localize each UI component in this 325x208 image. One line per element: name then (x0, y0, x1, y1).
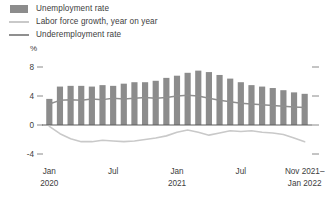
bar-swatch-icon (8, 4, 30, 13)
bar (259, 87, 265, 125)
bar (291, 92, 297, 125)
x-axis-tick-label: 2021 (168, 179, 187, 188)
line-swatch-dark-icon (8, 30, 30, 39)
chart-canvas: 840-4 Jan2020JulJan2021JulNov 2021–Jan 2… (0, 44, 325, 208)
y-axis-ticks: 840-4 (27, 63, 43, 159)
legend-label-underemployment-rate: Underemployment rate (36, 30, 121, 39)
bar (280, 90, 286, 125)
bar (153, 81, 159, 125)
x-axis-tick-label: Jul (236, 167, 247, 176)
x-axis-tick-label: Jan (43, 167, 57, 176)
legend-label-unemployment-rate: Unemployment rate (36, 4, 109, 13)
x-axis-tick-label: Jan (170, 167, 184, 176)
legend-item-unemployment-rate: Unemployment rate (8, 2, 308, 15)
unemployment-chart: Unemployment rate Labor force growth, ye… (0, 0, 325, 208)
x-axis-tick-label: Jan 2022 (288, 179, 322, 188)
bar (195, 71, 201, 125)
line-swatch-light-icon (8, 17, 30, 26)
y-axis-unit-label: % (30, 44, 37, 53)
bar (110, 86, 116, 125)
x-axis-tick-label: Jul (108, 167, 119, 176)
bar (57, 87, 63, 125)
y-axis-tick-label: 4 (29, 92, 34, 101)
x-axis-tick-label: 2020 (40, 179, 59, 188)
bar (89, 87, 95, 125)
bar (163, 78, 169, 125)
bar (248, 85, 254, 125)
legend-item-underemployment-rate: Underemployment rate (8, 28, 308, 41)
bar (68, 86, 74, 125)
bar (270, 88, 276, 125)
plot-area: % 840-4 Jan2020JulJan2021JulNov 2021–Jan… (0, 44, 325, 208)
bar (174, 76, 180, 125)
legend-item-labor-force-growth: Labor force growth, year on year (8, 15, 308, 28)
y-axis-tick-label: 0 (29, 121, 34, 130)
bar (121, 84, 127, 125)
bar (302, 94, 308, 125)
bar (185, 73, 191, 125)
bar (78, 86, 84, 125)
bar (131, 82, 137, 125)
legend-label-labor-force-growth: Labor force growth, year on year (36, 17, 158, 26)
bar (142, 82, 148, 125)
x-axis-tick-label: Nov 2021– (285, 167, 325, 176)
right-axis-ticks (312, 67, 319, 154)
labor-force-growth-line (49, 126, 304, 141)
y-axis-tick-label: 8 (29, 63, 34, 72)
bar (99, 85, 105, 125)
y-axis-tick-label: -4 (27, 150, 35, 159)
x-axis-ticks: Jan2020JulJan2021JulNov 2021–Jan 2022 (40, 167, 325, 188)
bar-series-unemployment-rate (46, 71, 308, 125)
chart-legend: Unemployment rate Labor force growth, ye… (8, 2, 308, 41)
